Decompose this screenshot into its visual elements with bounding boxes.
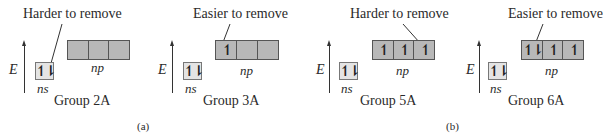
ns-orbital: ↿⇂ [183,62,202,80]
ns-label: ns [341,81,353,97]
ns-orbital: ↿⇂ [35,62,54,80]
energy-label: E [466,62,475,78]
np-label: np [396,63,409,79]
np-orbitals: ↿⇂ ↿ ↿ [521,40,584,60]
np-orbital [68,41,89,59]
ns-orbital: ↿⇂ [488,62,507,80]
group-label: Group 6A [508,93,564,109]
np-orbital [89,41,110,59]
np-orbitals: ↿ [215,40,279,60]
energy-label: E [316,62,325,78]
energy-label: E [158,62,167,78]
ns-label: ns [185,81,197,97]
energy-axis [329,44,330,93]
panel-group-2a: Harder to remove E ↿⇂ ns np Group 2A (a) [0,0,150,136]
panel-group-5a: Harder to remove E ↿⇂ ns ↿ ↿ ↿ np Group … [300,0,450,136]
group-label: Group 2A [54,93,110,109]
energy-axis [24,44,25,93]
np-orbital: ↿ [414,41,434,59]
energy-axis [479,44,480,93]
part-label-a: (a) [137,120,149,132]
np-orbital [109,41,129,59]
ns-label: ns [490,81,502,97]
callout-leader-line [0,0,150,136]
panel-group-3a: Easier to remove E ↿⇂ ns ↿ np Group 3A [150,0,300,136]
np-orbital: ↿⇂ [522,41,543,59]
np-orbital [237,41,258,59]
group-label: Group 3A [203,93,259,109]
ns-label: ns [37,81,49,97]
group-label: Group 5A [360,93,416,109]
np-orbital: ↿ [543,41,564,59]
np-orbital [258,41,278,59]
np-label: np [240,63,253,79]
np-orbital: ↿ [216,41,237,59]
ns-orbital: ↿⇂ [339,62,358,80]
np-orbital: ↿ [563,41,583,59]
np-orbitals [67,40,130,60]
np-orbital: ↿ [373,41,394,59]
np-label: np [545,63,558,79]
panel-group-6a: Easier to remove E ↿⇂ ns ↿⇂ ↿ ↿ np Group… [450,0,603,136]
np-orbitals: ↿ ↿ ↿ [372,40,435,60]
np-orbital: ↿ [394,41,415,59]
energy-label: E [9,62,18,78]
energy-axis [172,44,173,93]
np-label: np [91,60,104,76]
